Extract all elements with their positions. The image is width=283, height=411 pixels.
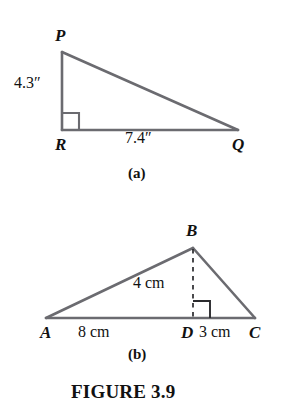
segment-PQ — [62, 52, 238, 130]
figure-3-9: P R Q 4.3″ 7.4″ (a) B A D C 4 cm 8 cm 3 … — [0, 0, 283, 411]
figure-caption: FIGURE 3.9 — [71, 382, 175, 401]
measure-label-BD: 4 cm — [133, 275, 165, 291]
vertex-label-A: A — [40, 324, 51, 341]
right-angle-mark-R — [62, 113, 79, 130]
vertex-label-Q: Q — [232, 136, 244, 153]
measure-label-PR: 4.3″ — [14, 75, 41, 91]
right-angle-mark-D — [193, 301, 210, 318]
measure-label-AD: 8 cm — [78, 324, 110, 340]
segment-BC — [193, 248, 255, 318]
panel-a-triangle-PRQ — [62, 52, 238, 130]
vertex-label-P: P — [55, 27, 65, 44]
vertex-label-C: C — [249, 324, 260, 341]
vertex-label-D: D — [181, 324, 193, 341]
measure-label-DC: 3 cm — [199, 324, 231, 340]
vertex-label-R: R — [55, 136, 66, 153]
vertex-label-B: B — [186, 222, 197, 239]
panel-label-a: (a) — [128, 166, 146, 181]
panel-label-b: (b) — [128, 347, 146, 362]
measure-label-RQ: 7.4″ — [125, 130, 152, 146]
segment-AB — [46, 248, 193, 318]
